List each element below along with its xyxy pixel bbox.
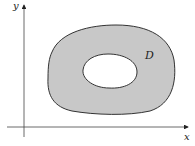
x-axis-label: x <box>184 131 190 142</box>
region-diagram: D y x <box>0 0 195 146</box>
region-d <box>48 25 175 114</box>
region-label: D <box>144 49 154 62</box>
y-axis-label: y <box>12 0 19 11</box>
